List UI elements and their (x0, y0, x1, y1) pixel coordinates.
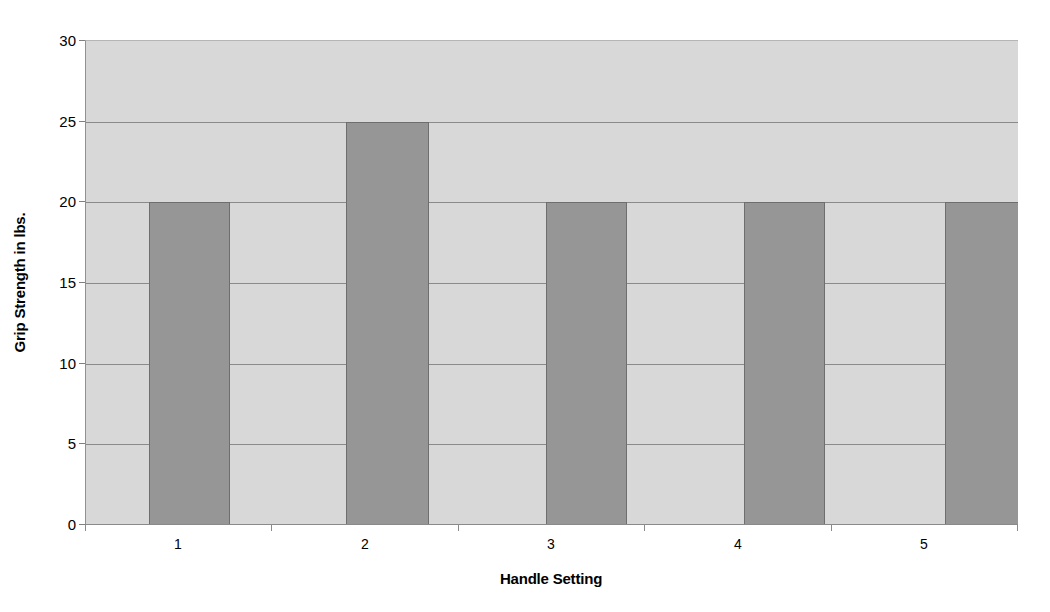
x-tick-mark-0 (85, 525, 86, 531)
x-tick-label-1: 1 (174, 536, 182, 552)
y-tick-label-0: 0 (68, 517, 76, 532)
bar-category-5[interactable] (945, 202, 1018, 525)
x-tick-mark-2 (458, 525, 459, 531)
y-tick-label-20: 20 (59, 194, 76, 209)
x-tick-label-4: 4 (734, 536, 742, 552)
x-axis-line (85, 524, 1018, 525)
x-tick-mark-3 (644, 525, 645, 531)
bar-category-1[interactable] (149, 202, 230, 525)
bars-layer (86, 41, 1018, 525)
x-tick-label-3: 3 (547, 536, 555, 552)
y-tick-label-5: 5 (68, 436, 76, 451)
x-tick-mark-4 (831, 525, 832, 531)
y-tick-label-10: 10 (59, 355, 76, 370)
x-tick-label-5: 5 (920, 536, 928, 552)
y-tick-label-30: 30 (59, 33, 76, 48)
plot-area (85, 40, 1018, 525)
x-tick-label-2: 2 (361, 536, 369, 552)
y-axis-title: Grip Strength in lbs. (0, 0, 40, 564)
y-axis-tick-labels: 0 5 10 15 20 25 30 (36, 40, 76, 524)
y-tick-label-25: 25 (59, 113, 76, 128)
x-tick-mark-1 (271, 525, 272, 531)
bar-category-3[interactable] (546, 202, 627, 525)
y-tick-label-15: 15 (59, 275, 76, 290)
x-axis-title: Handle Setting (85, 570, 1017, 587)
x-tick-mark-5 (1017, 525, 1018, 531)
bar-chart: Grip Strength in lbs. 0 5 10 15 20 25 30 (0, 0, 1050, 612)
bar-category-4[interactable] (744, 202, 825, 525)
y-axis-title-text: Grip Strength in lbs. (12, 212, 29, 352)
bar-category-2[interactable] (346, 122, 429, 525)
